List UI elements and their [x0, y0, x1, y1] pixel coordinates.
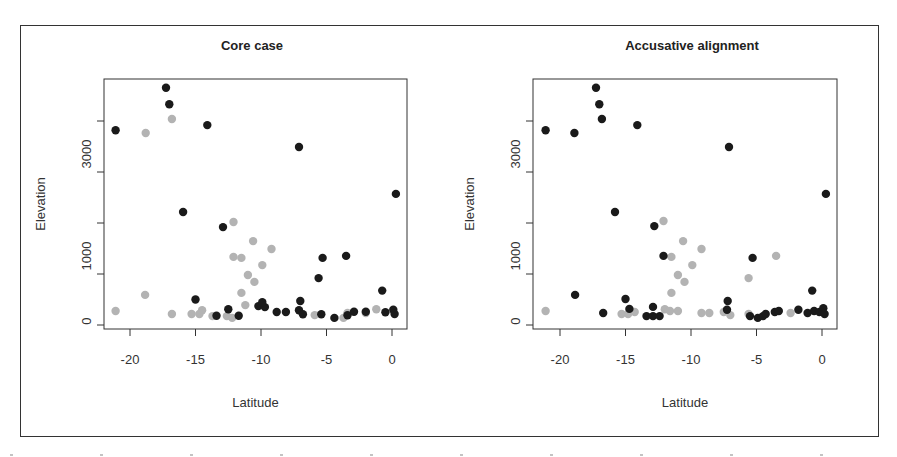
- data-point-gray: [697, 309, 705, 317]
- y-tick-label: 3000: [79, 140, 94, 169]
- data-point-black: [350, 308, 358, 316]
- data-point-black: [621, 295, 629, 303]
- data-point-black: [775, 307, 783, 315]
- x-tick-label: -15: [616, 352, 635, 367]
- data-point-black: [808, 286, 816, 294]
- data-point-black: [342, 252, 350, 260]
- data-point-black: [748, 254, 756, 262]
- data-point-gray: [667, 289, 675, 297]
- data-point-gray: [541, 307, 549, 315]
- data-point-black: [724, 297, 732, 305]
- data-point-black: [794, 306, 802, 314]
- data-point-black: [165, 100, 173, 108]
- data-point-black: [381, 308, 389, 316]
- data-point-black: [571, 291, 579, 299]
- data-point-black: [258, 298, 266, 306]
- data-point-gray: [229, 218, 237, 226]
- data-point-gray: [680, 278, 688, 286]
- data-point-black: [314, 274, 322, 282]
- y-tick-label: 1000: [79, 242, 94, 271]
- data-point-gray: [168, 310, 176, 318]
- data-point-gray: [141, 291, 149, 299]
- data-point-gray: [679, 237, 687, 245]
- data-point-black: [392, 190, 400, 198]
- data-point-black: [650, 222, 658, 230]
- data-point-gray: [786, 309, 794, 317]
- cut-off-caption-text: [10, 452, 890, 457]
- data-point-black: [598, 115, 606, 123]
- data-point-gray: [697, 245, 705, 253]
- data-point-gray: [258, 261, 266, 269]
- x-tick-label: -20: [121, 352, 140, 367]
- data-point-gray: [372, 305, 380, 313]
- data-point-gray: [772, 252, 780, 260]
- x-tick-label: 0: [388, 352, 395, 367]
- data-point-black: [282, 308, 290, 316]
- data-point-black: [162, 84, 170, 92]
- data-point-gray: [666, 307, 674, 315]
- data-point-black: [633, 121, 641, 129]
- data-point-gray: [229, 253, 237, 261]
- data-point-gray: [168, 115, 176, 123]
- data-point-gray: [250, 278, 258, 286]
- data-point-black: [746, 312, 754, 320]
- x-tick-label: 0: [818, 352, 825, 367]
- x-tick-label: -5: [751, 352, 763, 367]
- data-point-gray: [142, 129, 150, 137]
- data-point-black: [378, 286, 386, 294]
- data-point-gray: [237, 254, 245, 262]
- data-point-black: [317, 310, 325, 318]
- data-point-black: [179, 208, 187, 216]
- data-point-gray: [267, 245, 275, 253]
- data-point-black: [762, 310, 770, 318]
- data-point-gray: [249, 237, 257, 245]
- panel-title: Accusative alignment: [625, 38, 759, 53]
- y-tick-label: 1000: [508, 242, 523, 271]
- data-point-black: [296, 297, 304, 305]
- x-tick-label: -15: [186, 352, 205, 367]
- data-point-black: [224, 305, 232, 313]
- y-axis-label: Elevation: [33, 177, 48, 230]
- data-point-gray: [688, 261, 696, 269]
- data-point-black: [330, 314, 338, 322]
- panel-core-case: Core case -20-15-10-50 010003000 Latitud…: [33, 38, 407, 410]
- plot-area: [533, 79, 837, 329]
- data-point-black: [723, 306, 731, 314]
- data-point-gray: [674, 307, 682, 315]
- x-tick-label: -10: [682, 352, 701, 367]
- data-point-black: [725, 143, 733, 151]
- data-point-gray: [111, 307, 119, 315]
- x-axis-label: Latitude: [232, 395, 278, 410]
- plot-area: [104, 79, 407, 329]
- data-point-black: [625, 305, 633, 313]
- data-point-gray: [241, 301, 249, 309]
- data-point-black: [592, 84, 600, 92]
- data-point-black: [611, 208, 619, 216]
- data-point-black: [191, 295, 199, 303]
- data-point-gray: [674, 271, 682, 279]
- data-point-black: [235, 312, 243, 320]
- y-tick-label: 0: [79, 317, 94, 324]
- data-point-gray: [744, 274, 752, 282]
- y-tick-label: 0: [508, 317, 523, 324]
- data-point-gray: [667, 253, 675, 261]
- figure-canvas: Core case -20-15-10-50 010003000 Latitud…: [0, 0, 897, 457]
- data-point-gray: [187, 310, 195, 318]
- panel-title: Core case: [221, 38, 283, 53]
- data-point-black: [595, 100, 603, 108]
- data-point-gray: [705, 309, 713, 317]
- x-tick-label: -5: [321, 352, 333, 367]
- data-point-black: [599, 309, 607, 317]
- data-point-gray: [198, 306, 206, 314]
- data-point-black: [822, 190, 830, 198]
- data-point-gray: [244, 271, 252, 279]
- data-point-black: [659, 252, 667, 260]
- data-point-black: [212, 312, 220, 320]
- x-axis-label: Latitude: [662, 395, 708, 410]
- data-point-black: [299, 310, 307, 318]
- data-point-black: [541, 126, 549, 134]
- data-point-black: [570, 129, 578, 137]
- data-point-black: [390, 310, 398, 318]
- data-point-black: [111, 126, 119, 134]
- x-tick-label: -20: [551, 352, 570, 367]
